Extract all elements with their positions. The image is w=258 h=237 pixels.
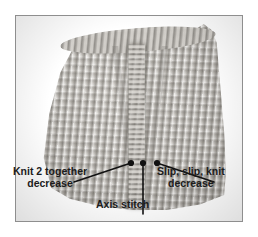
callout-label-knit-2-together: Knit 2 together decrease [13,166,87,189]
callout-line-1: Knit 2 together [13,166,87,178]
figure-frame [15,15,243,222]
swatch-photograph [16,16,242,221]
callout-label-axis-stitch: Axis stitch [96,199,149,211]
axis-stitch-column [128,44,145,208]
callout-label-slip-slip-knit: Slip, slip, knit decrease [157,166,225,189]
callout-line-2: decrease [157,178,225,190]
callout-line-1: Axis stitch [96,199,149,211]
figure-root: Knit 2 together decrease Slip, slip, kni… [0,0,258,237]
callout-line-1: Slip, slip, knit [157,166,225,178]
callout-line-2: decrease [13,178,87,190]
